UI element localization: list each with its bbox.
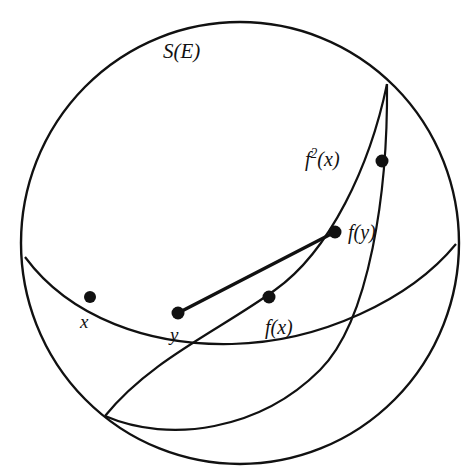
point-label-f2x-arg: (x) (317, 148, 339, 170)
point-y (172, 307, 185, 320)
point-f2x (376, 155, 389, 168)
sphere-label: S(E) (163, 41, 200, 62)
tilted-great-circle-front (105, 84, 387, 416)
point-label-y: y (170, 325, 178, 344)
point-label-f2x: f2(x) (305, 147, 340, 169)
point-fx (263, 291, 276, 304)
point-label-fy: f(y) (348, 222, 376, 242)
point-label-fx: f(x) (265, 317, 293, 337)
sphere-outline-circle (21, 22, 459, 464)
point-label-x: x (80, 312, 88, 331)
geodesic-chord-y-fy (178, 232, 335, 313)
sphere-diagram (0, 0, 470, 476)
point-fy (329, 226, 342, 239)
point-x (84, 291, 96, 303)
figure-container: S(E) f2(x) f(y) f(x) x y (0, 0, 470, 476)
tilted-great-circle-back (105, 84, 387, 430)
